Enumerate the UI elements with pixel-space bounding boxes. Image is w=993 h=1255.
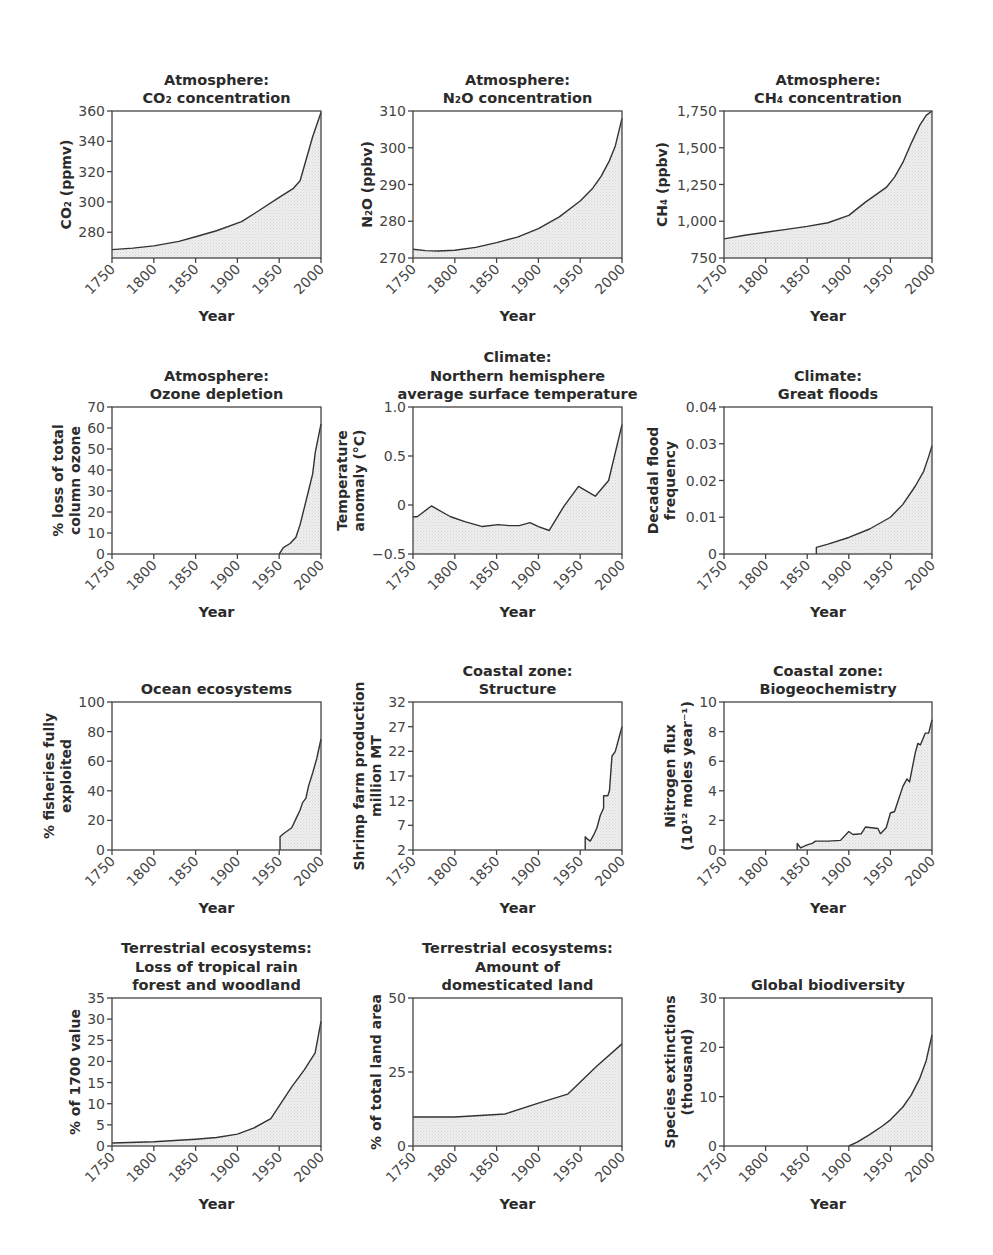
x-tick-label: 1900 [818, 853, 855, 890]
y-tick-label: 7 [397, 817, 406, 833]
chart-grid: Atmosphere:CO₂ concentration280300320340… [0, 0, 993, 1255]
y-axis-label: % loss of total [50, 424, 66, 537]
chart-title: Atmosphere: [164, 368, 269, 384]
chart-title: Structure [479, 681, 557, 697]
x-axis-label: Year [198, 604, 236, 620]
x-tick-label: 1750 [82, 557, 119, 594]
x-tick-label: 2000 [291, 261, 328, 298]
x-tick-label: 1750 [694, 557, 731, 594]
x-tick-label: 1950 [249, 853, 286, 890]
x-tick-label: 1900 [508, 261, 545, 298]
area-fill [849, 1035, 932, 1146]
y-tick-label: 1,000 [677, 213, 717, 229]
x-tick-label: 1950 [550, 261, 587, 298]
y-tick-label: 290 [379, 177, 406, 193]
y-axis-label: anomaly (°C) [351, 430, 367, 532]
x-tick-label: 2000 [291, 557, 328, 594]
x-tick-label: 2000 [592, 1149, 629, 1186]
y-tick-label: 15 [87, 1075, 105, 1091]
chart-title: domesticated land [442, 977, 594, 993]
x-tick-label: 1750 [383, 557, 420, 594]
area-fill [724, 111, 932, 258]
y-tick-label: 300 [379, 140, 406, 156]
x-tick-label: 1800 [424, 853, 461, 890]
y-tick-label: 2 [708, 812, 717, 828]
y-axis-label: % of 1700 value [67, 1009, 83, 1135]
y-axis-label: Decadal flood [645, 427, 661, 535]
y-axis-label: Temperature [334, 430, 350, 531]
x-tick-label: 1900 [508, 1149, 545, 1186]
y-tick-label: 280 [78, 224, 105, 240]
y-tick-label: 1,500 [677, 140, 717, 156]
chart-title: Atmosphere: [465, 72, 570, 88]
x-tick-label: 1750 [694, 1149, 731, 1186]
plot-frame [112, 407, 321, 554]
x-tick-label: 1800 [424, 261, 461, 298]
y-tick-label: 32 [388, 694, 406, 710]
x-axis-label: Year [499, 900, 537, 916]
y-axis-label: % of total land area [368, 994, 384, 1150]
x-tick-label: 1850 [165, 1149, 202, 1186]
y-tick-label: 8 [708, 724, 717, 740]
x-tick-label: 1950 [550, 1149, 587, 1186]
chart-title: Coastal zone: [462, 663, 572, 679]
y-tick-label: 270 [379, 250, 406, 266]
y-axis-label: CO₂ (ppmv) [58, 140, 74, 230]
x-tick-label: 1850 [777, 557, 814, 594]
x-tick-label: 1900 [818, 557, 855, 594]
y-tick-label: 20 [87, 812, 105, 828]
chart-title: forest and woodland [132, 977, 301, 993]
y-tick-label: 10 [87, 1096, 105, 1112]
x-tick-label: 1900 [207, 557, 244, 594]
chart-panel-co2: Atmosphere:CO₂ concentration280300320340… [58, 72, 327, 325]
x-tick-label: 1950 [550, 557, 587, 594]
y-tick-label: 10 [87, 525, 105, 541]
chart-title: Great floods [778, 386, 878, 402]
y-axis-label: frequency [662, 441, 678, 520]
plot-frame [112, 702, 321, 850]
x-tick-label: 1950 [860, 1149, 897, 1186]
y-tick-label: 20 [87, 504, 105, 520]
x-axis-label: Year [809, 308, 847, 324]
x-axis-label: Year [809, 1196, 847, 1212]
y-axis-label: Shrimp farm production [351, 681, 367, 870]
x-tick-label: 1750 [383, 853, 420, 890]
area-fill [413, 425, 622, 554]
y-tick-label: 80 [87, 724, 105, 740]
y-tick-label: 310 [379, 103, 406, 119]
x-tick-label: 1850 [165, 261, 202, 298]
x-tick-label: 1750 [694, 853, 731, 890]
y-axis-label: exploited [58, 739, 74, 813]
x-axis-label: Year [499, 604, 537, 620]
x-tick-label: 1750 [82, 1149, 119, 1186]
x-tick-label: 1900 [207, 261, 244, 298]
chart-title: CH₄ concentration [754, 90, 902, 106]
x-tick-label: 1950 [249, 1149, 286, 1186]
y-tick-label: 30 [87, 1011, 105, 1027]
chart-panel-biodiversity: Global biodiversity010203017501800185019… [662, 977, 939, 1212]
x-tick-label: 1750 [383, 261, 420, 298]
y-tick-label: 750 [690, 250, 717, 266]
area-fill [279, 424, 321, 554]
chart-title: Global biodiversity [751, 977, 906, 993]
x-tick-label: 1850 [165, 557, 202, 594]
y-tick-label: 0.02 [686, 473, 717, 489]
x-tick-label: 2000 [902, 557, 939, 594]
y-tick-label: 50 [87, 441, 105, 457]
chart-title: Biogeochemistry [759, 681, 897, 697]
y-tick-label: 20 [87, 1053, 105, 1069]
y-tick-label: 340 [78, 133, 105, 149]
y-tick-label: 4 [708, 783, 717, 799]
area-fill [280, 739, 321, 850]
y-tick-label: 60 [87, 420, 105, 436]
x-tick-label: 1800 [735, 261, 772, 298]
y-tick-label: 100 [78, 694, 105, 710]
y-tick-label: 320 [78, 164, 105, 180]
x-axis-label: Year [198, 1196, 236, 1212]
chart-panel-n2o: Atmosphere:N₂O concentration270280290300… [359, 72, 628, 325]
y-tick-label: 12 [388, 793, 406, 809]
y-axis-label: CH₄ (ppbv) [654, 142, 670, 227]
x-tick-label: 1850 [777, 261, 814, 298]
x-tick-label: 1850 [466, 1149, 503, 1186]
chart-title: Amount of [475, 959, 561, 975]
